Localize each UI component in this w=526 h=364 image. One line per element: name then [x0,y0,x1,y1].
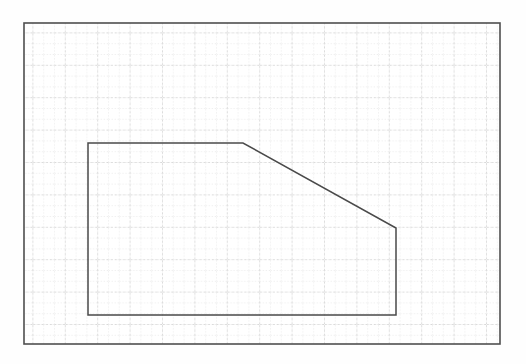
diagram-svg [0,0,526,364]
diagram-canvas [0,0,526,364]
grid-overlay [24,23,500,344]
